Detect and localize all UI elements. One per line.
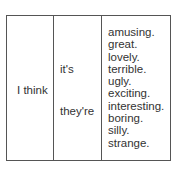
column-divider-1 <box>53 16 54 160</box>
adjective-item: amusing. <box>108 26 164 38</box>
adjective-item: interesting. <box>108 100 164 112</box>
adjective-item: strange. <box>108 137 164 149</box>
subject-cell: I think <box>17 85 48 97</box>
adjective-item: terrible. <box>108 63 164 75</box>
adjective-item: silly. <box>108 124 164 136</box>
column-divider-2 <box>101 16 102 160</box>
adjective-list: amusing. great. lovely. terrible. ugly. … <box>108 26 164 149</box>
adjective-item: ugly. <box>108 75 164 87</box>
adjective-item: boring. <box>108 112 164 124</box>
adjective-item: lovely. <box>108 51 164 63</box>
pronoun-cell: it's <box>60 64 74 76</box>
pronoun-cell: they're <box>60 106 94 118</box>
adjective-item: exciting. <box>108 87 164 99</box>
substitution-table: I think it's they're amusing. great. lov… <box>6 15 171 161</box>
adjective-item: great. <box>108 38 164 50</box>
